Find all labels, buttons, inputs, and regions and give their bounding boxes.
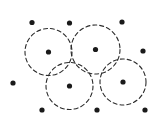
center-dot-bottom-left <box>67 83 72 88</box>
dot-bottom-1 <box>39 107 44 112</box>
dot-left-1 <box>10 80 15 85</box>
figure-background <box>0 0 164 126</box>
dot-bottom-2 <box>94 107 99 112</box>
dot-bottom-3 <box>142 107 147 112</box>
center-dot-top-left <box>46 49 51 54</box>
dot-top-1 <box>29 20 34 25</box>
dot-top-3 <box>119 19 124 24</box>
center-dot-bottom-right <box>120 79 125 84</box>
dot-right-1 <box>140 48 145 53</box>
dot-top-2 <box>67 20 72 25</box>
figure-canvas <box>0 0 164 126</box>
dashed-circle-packing-svg <box>0 0 164 126</box>
center-dot-top-right <box>93 47 98 52</box>
